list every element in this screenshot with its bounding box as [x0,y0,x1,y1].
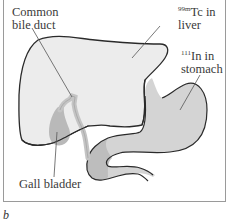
label-common-bile-duct: Common bile duct [12,6,59,32]
isotope-symbol: In in [191,49,214,63]
label-gall-bladder: Gall bladder [19,178,81,191]
isotope-symbol: Tc in [190,5,215,19]
label-line: bile duct [12,19,59,32]
label-line: liver [178,19,216,32]
label-in-stomach: 111In in stomach [181,50,223,76]
label-line: stomach [181,63,223,76]
panel-label: b [3,208,9,223]
label-tc-liver: 99mTc in liver [178,6,216,32]
isotope-mass: 111 [181,49,191,57]
isotope-mass: 99m [178,5,190,13]
